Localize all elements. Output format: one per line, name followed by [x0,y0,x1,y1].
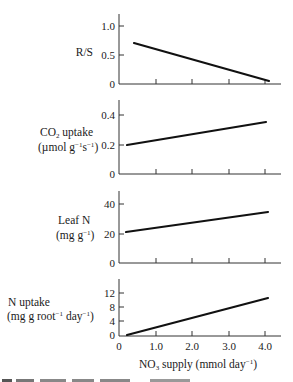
y-axis-label: N uptake [8,296,50,309]
y-axis-label-units: (mg g−1) [56,229,95,242]
y-tick-label: 0.4 [101,109,115,121]
panel-co2-uptake: 0.4 0.2 0 CO2 uptake (µmol g−1s−1) [38,100,281,180]
x-tick-label: 4.0 [258,340,272,352]
x-tick-label: 1.0 [149,340,163,352]
y-tick-label: 8 [110,301,116,313]
x-axis-title: NO3 supply (mmol day−1) [139,358,257,372]
panel-leaf-n: 40 20 0 Leaf N (mg g−1) [56,191,281,269]
y-axis-label-units: (mg g root−1 day−1) [7,310,94,323]
y-axis-label-units: (µmol g−1s−1) [38,141,98,154]
data-line [126,212,268,232]
y-tick-label: 4 [110,315,116,327]
y-tick-label: 1.0 [101,20,115,32]
y-tick-label: 12 [104,287,115,299]
x-tick-label: 3.0 [222,340,236,352]
y-axis-label: CO2 uptake [40,126,93,140]
data-line [127,122,266,145]
x-tick-label: 0 [116,340,122,352]
y-tick-label: 0 [110,257,116,269]
y-tick-label: 0 [110,329,116,341]
panel-rs: 1.0 0.5 0 R/S [76,14,281,90]
panel-n-uptake: 12 8 4 0 N uptake (mg g root−1 day−1) 0 … [7,279,281,372]
y-tick-label: 40 [104,198,116,210]
y-tick-label: 0 [110,78,116,90]
chart-figure: 1.0 0.5 0 R/S 0.4 0.2 0 CO2 uptake (µmol… [0,0,293,382]
y-axis-label: Leaf N [58,214,91,226]
x-tick-label: 2.0 [185,340,199,352]
y-tick-label: 0.5 [101,49,115,61]
y-tick-label: 20 [104,228,116,240]
y-tick-label: 0 [110,168,116,180]
data-line [134,43,269,81]
y-axis-label: R/S [76,46,93,58]
data-line [127,298,268,335]
y-tick-label: 0.2 [101,139,115,151]
